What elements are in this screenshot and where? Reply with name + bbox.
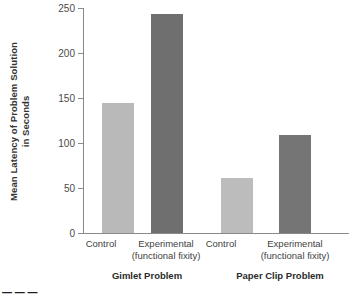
y-axis-title-line1: Mean Latency of Problem Solution bbox=[8, 42, 19, 201]
y-axis-line bbox=[83, 8, 84, 234]
category-label-line2: (functional fixity) bbox=[113, 250, 219, 262]
category-label-line2: (functional fixity) bbox=[242, 250, 348, 262]
figure-caption-fragment-text: — — — bbox=[2, 287, 38, 297]
category-label-line1: Experimental bbox=[267, 238, 322, 249]
x-axis-line bbox=[83, 233, 349, 234]
bar-gimlet-experimental bbox=[151, 14, 183, 233]
category-label-line1: Control bbox=[206, 238, 237, 249]
figure-caption-fragment: — — — bbox=[2, 287, 38, 297]
bar-paperclip-control bbox=[221, 178, 253, 233]
group-label-text: Gimlet Problem bbox=[112, 270, 182, 281]
y-tick-label-250: 250 bbox=[58, 3, 75, 14]
y-tick-label-150: 150 bbox=[58, 93, 75, 104]
y-tick-label-100: 100 bbox=[58, 138, 75, 149]
y-tick-label-200: 200 bbox=[58, 48, 75, 59]
group-label-text: Paper Clip Problem bbox=[236, 270, 324, 281]
y-tick-label-50: 50 bbox=[64, 183, 75, 194]
group-label-gimlet-problem: Gimlet Problem bbox=[92, 270, 202, 281]
category-label-line1: Control bbox=[86, 238, 117, 249]
plot-area: 250 200 150 100 50 0 bbox=[83, 8, 349, 234]
bar-paperclip-experimental bbox=[279, 135, 311, 233]
y-axis-title: Mean Latency of Problem Solution in Seco… bbox=[6, 8, 32, 234]
y-tick-label-0: 0 bbox=[69, 228, 75, 239]
category-label-paperclip-experimental: Experimental (functional fixity) bbox=[242, 238, 348, 261]
group-label-paper-clip-problem: Paper Clip Problem bbox=[215, 270, 345, 281]
bar-gimlet-control bbox=[102, 103, 134, 234]
category-label-line1: Experimental bbox=[138, 238, 193, 249]
bar-chart-figure: Mean Latency of Problem Solution in Seco… bbox=[0, 0, 353, 297]
y-axis-title-line2: in Seconds bbox=[19, 42, 31, 201]
